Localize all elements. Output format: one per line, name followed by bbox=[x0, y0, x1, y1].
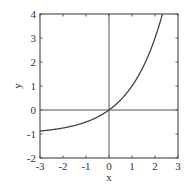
y-tick-label: 3 bbox=[31, 32, 37, 44]
y-tick-label: 4 bbox=[31, 8, 37, 20]
x-tick-label: -2 bbox=[58, 160, 67, 172]
chart: -3-2-10123 -2-101234 x y bbox=[0, 0, 189, 186]
y-tick-label: 0 bbox=[31, 104, 37, 116]
x-tick-label: 2 bbox=[152, 160, 158, 172]
x-tick-label: -3 bbox=[35, 160, 45, 172]
y-tick-label: 2 bbox=[31, 56, 37, 68]
y-tick-label: 1 bbox=[31, 80, 37, 92]
x-tick-label: 1 bbox=[129, 160, 135, 172]
x-axis-label: x bbox=[106, 171, 112, 183]
y-tick-labels: -2-101234 bbox=[27, 8, 37, 164]
y-axis-label: y bbox=[11, 83, 23, 89]
reference-lines bbox=[40, 14, 178, 158]
x-tick-label: 3 bbox=[175, 160, 181, 172]
x-tick-label: -1 bbox=[81, 160, 90, 172]
y-tick-label: -2 bbox=[27, 152, 36, 164]
y-tick-label: -1 bbox=[27, 128, 36, 140]
